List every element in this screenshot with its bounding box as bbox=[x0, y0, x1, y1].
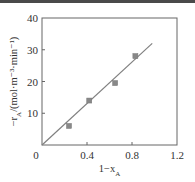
data-point bbox=[87, 98, 92, 103]
data-point bbox=[133, 54, 138, 59]
x-axis-label-sub: A bbox=[115, 170, 120, 178]
data-points-group bbox=[67, 54, 138, 129]
y-tick-label: 40 bbox=[27, 12, 39, 24]
x-axis-label: 1−xA bbox=[99, 163, 120, 178]
x-axis-label-main: 1−x bbox=[99, 163, 116, 174]
y-tick-label: 10 bbox=[27, 107, 39, 119]
x-tick-label: 0 bbox=[33, 149, 39, 161]
x-tick-label: 1.2 bbox=[170, 149, 184, 161]
x-tick-label: 0.8 bbox=[125, 149, 139, 161]
y-axis-label-units: /(mol·m⁻³·min⁻¹) bbox=[8, 36, 20, 112]
data-point bbox=[67, 123, 72, 128]
chart: 00.40.81.210203040 1−xA −rA/(mol·m⁻³·min… bbox=[0, 0, 195, 182]
y-tick-label: 30 bbox=[27, 44, 39, 56]
x-tick-label: 0.4 bbox=[80, 149, 94, 161]
data-point bbox=[113, 81, 118, 86]
y-tick-label: 20 bbox=[27, 76, 39, 88]
y-axis-label: −rA/(mol·m⁻³·min⁻¹) bbox=[8, 36, 23, 126]
